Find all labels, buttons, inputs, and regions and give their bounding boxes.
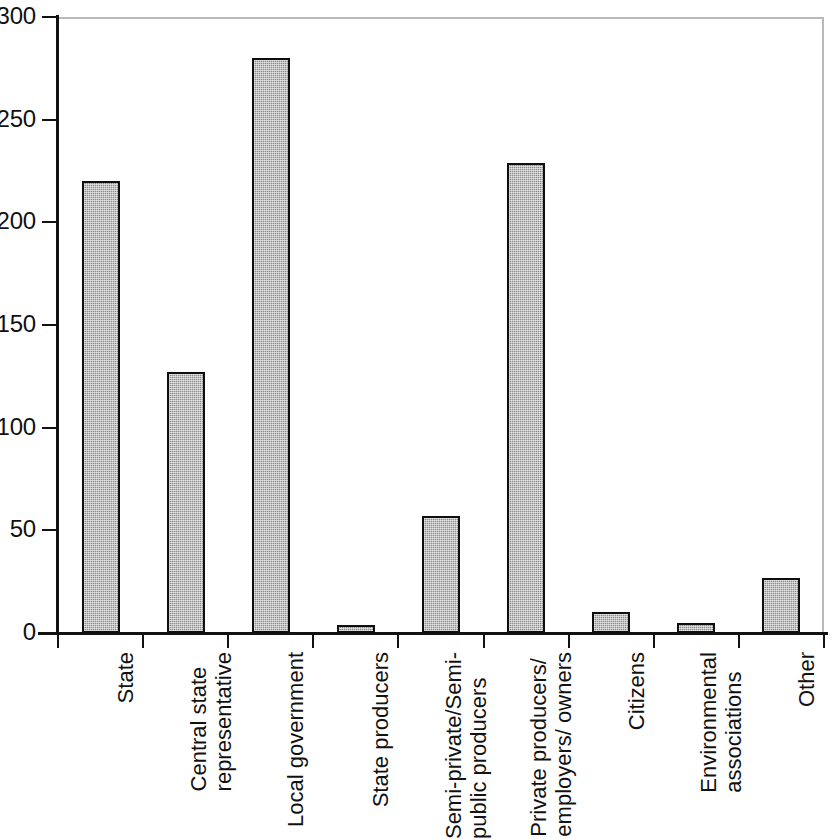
x-axis-category-label-line: State — [113, 652, 138, 703]
x-axis-tick — [653, 635, 655, 648]
bar — [337, 625, 375, 633]
x-axis-category-label-line: Environmental — [696, 652, 721, 793]
x-axis-category-label: State producers — [368, 652, 393, 807]
x-axis-tick — [738, 635, 740, 648]
x-axis-tick — [568, 635, 570, 648]
x-axis-category-label-line: Citizens — [624, 652, 649, 730]
y-axis-tick-label: 50 — [0, 517, 36, 541]
bar — [422, 516, 460, 633]
bar — [592, 612, 630, 633]
y-axis-tick-label: 0 — [0, 620, 36, 644]
x-axis-category-label: Private producers/employers/ owners — [526, 652, 576, 837]
x-axis-category-label-line: Semi-private/Semi- — [441, 652, 466, 839]
x-axis-tick — [227, 635, 229, 648]
x-axis-tick — [823, 635, 825, 648]
x-axis-category-label: State — [113, 652, 138, 703]
x-axis-tick — [57, 635, 59, 648]
x-axis-category-label: Citizens — [624, 652, 649, 730]
y-axis-tick-label: 100 — [0, 415, 36, 439]
x-axis-category-label: Local government — [283, 652, 308, 827]
x-axis-category-label-line: associations — [721, 652, 746, 793]
x-axis-category-label-line: employers/ owners — [551, 652, 576, 837]
x-axis-category-label-line: public producers — [466, 652, 491, 839]
bar — [762, 578, 800, 633]
y-axis-tick-label: 250 — [0, 107, 36, 131]
y-axis-tick-label: 150 — [0, 312, 36, 336]
y-axis-tick — [42, 632, 57, 634]
x-axis-tick — [312, 635, 314, 648]
bar — [507, 163, 545, 633]
y-axis-tick — [42, 16, 57, 18]
bar — [252, 58, 290, 633]
y-axis-tick-label: 300 — [0, 4, 36, 28]
x-axis-category-label-line: representative — [211, 652, 236, 791]
y-axis-tick — [42, 324, 57, 326]
x-axis-tick — [483, 635, 485, 648]
x-axis-category-label-line: State producers — [368, 652, 393, 807]
x-axis-category-label: Central staterepresentative — [186, 652, 236, 791]
y-axis-tick — [42, 529, 57, 531]
x-axis-category-label-line: Central state — [186, 652, 211, 791]
x-axis-category-label: Environmentalassociations — [696, 652, 746, 793]
x-axis-category-label: Other — [794, 652, 819, 707]
bar — [82, 181, 120, 633]
y-axis-tick-label: 200 — [0, 209, 36, 233]
y-axis-tick — [42, 427, 57, 429]
bar — [167, 372, 205, 633]
x-axis-category-label: Semi-private/Semi-public producers — [441, 652, 491, 839]
x-axis-tick — [142, 635, 144, 648]
y-axis-tick — [42, 119, 57, 121]
x-axis-tick — [397, 635, 399, 648]
x-axis-category-label-line: Private producers/ — [526, 652, 551, 837]
x-axis-category-label-line: Local government — [283, 652, 308, 827]
bar-chart: 050100150200250300 StateCentral staterep… — [0, 0, 832, 839]
x-axis-category-label-line: Other — [794, 652, 819, 707]
y-axis-tick — [42, 221, 57, 223]
bar — [677, 623, 715, 633]
